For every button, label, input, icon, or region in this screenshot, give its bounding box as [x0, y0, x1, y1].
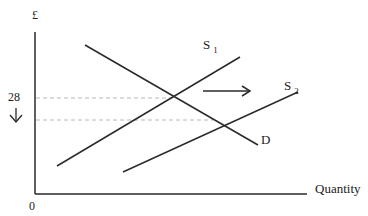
x-axis-label: Quantity [315, 181, 361, 196]
price-down-arrow-icon [10, 108, 22, 122]
price-label: 28 [8, 90, 20, 104]
supply1-label: S1 [203, 37, 218, 55]
supply-curve-2 [123, 92, 298, 172]
supply-demand-diagram: £ Quantity 0 28 D S1 S2 [0, 0, 368, 216]
supply-curve-1 [57, 57, 240, 166]
supply2-label: S2 [284, 78, 299, 96]
y-axis-label: £ [32, 8, 38, 22]
shift-arrow-icon [203, 86, 250, 96]
demand-label: D [261, 132, 270, 147]
demand-curve [85, 45, 258, 145]
origin-label: 0 [29, 199, 35, 213]
